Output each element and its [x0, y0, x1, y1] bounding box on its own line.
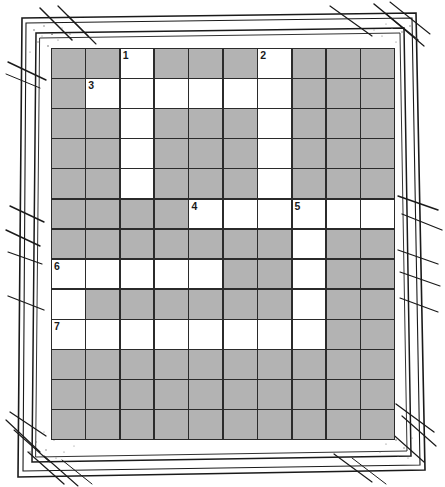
crossword-cell-block: [293, 169, 326, 198]
crossword-cell-block: [189, 109, 222, 138]
crossword-cell-block: [52, 200, 85, 229]
crossword-cell-block: [361, 410, 394, 439]
crossword-cell-block: [86, 169, 119, 198]
crossword-cell-open[interactable]: [155, 79, 188, 108]
crossword-cell-block: [52, 380, 85, 409]
crossword-cell-block: [293, 109, 326, 138]
crossword-cell-block: [293, 380, 326, 409]
crossword-cell-open[interactable]: [189, 260, 222, 289]
crossword-cell-block: [86, 49, 119, 78]
crossword-cell-block: [293, 350, 326, 379]
crossword-cell-block: [155, 230, 188, 259]
crossword-cell-open[interactable]: 2: [258, 49, 291, 78]
crossword-cell-block: [224, 139, 257, 168]
crossword-cell-open[interactable]: [361, 200, 394, 229]
crossword-cell-block: [155, 49, 188, 78]
crossword-cell-open[interactable]: [86, 260, 119, 289]
crossword-cell-block: [121, 380, 154, 409]
crossword-cell-block: [327, 169, 360, 198]
crossword-cell-block: [121, 410, 154, 439]
crossword-cell-open[interactable]: [258, 109, 291, 138]
crossword-cell-block: [155, 139, 188, 168]
crossword-cell-block: [121, 200, 154, 229]
crossword-cell-block: [52, 139, 85, 168]
crossword-cell-block: [86, 139, 119, 168]
clue-number: 6: [54, 260, 60, 272]
crossword-cell-block: [224, 49, 257, 78]
crossword-cell-block: [327, 350, 360, 379]
crossword-grid[interactable]: 1234567: [51, 48, 395, 440]
crossword-cell-open[interactable]: [121, 139, 154, 168]
crossword-cell-block: [224, 290, 257, 319]
crossword-cell-open[interactable]: [258, 139, 291, 168]
crossword-cell-open[interactable]: [258, 79, 291, 108]
crossword-cell-open[interactable]: [189, 320, 222, 349]
crossword-cell-open[interactable]: 6: [52, 260, 85, 289]
crossword-cell-block: [327, 380, 360, 409]
crossword-cell-open[interactable]: 4: [189, 200, 222, 229]
crossword-cell-block: [327, 320, 360, 349]
crossword-cell-block: [258, 380, 291, 409]
crossword-cell-open[interactable]: [258, 169, 291, 198]
crossword-cell-open[interactable]: [293, 320, 326, 349]
crossword-cell-block: [189, 350, 222, 379]
crossword-cell-open[interactable]: [155, 320, 188, 349]
crossword-cell-block: [155, 350, 188, 379]
crossword-cell-block: [155, 380, 188, 409]
crossword-cell-block: [327, 230, 360, 259]
crossword-cell-block: [293, 49, 326, 78]
crossword-cell-block: [86, 290, 119, 319]
crossword-cell-open[interactable]: [224, 320, 257, 349]
crossword-cell-block: [224, 260, 257, 289]
crossword-cell-open[interactable]: [121, 109, 154, 138]
crossword-cell-block: [52, 350, 85, 379]
crossword-cell-open[interactable]: [121, 260, 154, 289]
crossword-cell-block: [327, 109, 360, 138]
crossword-cell-open[interactable]: 7: [52, 320, 85, 349]
crossword-cell-open[interactable]: [155, 260, 188, 289]
crossword-cell-open[interactable]: [121, 79, 154, 108]
clue-number: 4: [191, 200, 197, 212]
crossword-cell-open[interactable]: [293, 290, 326, 319]
crossword-cell-block: [121, 290, 154, 319]
crossword-cell-block: [327, 410, 360, 439]
crossword-cell-open[interactable]: [121, 320, 154, 349]
crossword-cell-open[interactable]: 3: [86, 79, 119, 108]
crossword-cell-block: [155, 169, 188, 198]
crossword-cell-block: [155, 109, 188, 138]
crossword-grid-wrapper: 1234567: [51, 48, 395, 440]
crossword-cell-block: [361, 169, 394, 198]
crossword-cell-block: [258, 410, 291, 439]
crossword-page: 1234567: [0, 0, 445, 487]
crossword-cell-block: [361, 109, 394, 138]
crossword-cell-block: [327, 139, 360, 168]
crossword-cell-open[interactable]: [52, 290, 85, 319]
crossword-cell-open[interactable]: 5: [293, 200, 326, 229]
crossword-cell-open[interactable]: 1: [121, 49, 154, 78]
crossword-cell-block: [121, 350, 154, 379]
crossword-cell-open[interactable]: [224, 79, 257, 108]
crossword-cell-block: [224, 380, 257, 409]
clue-number: 2: [260, 49, 266, 61]
crossword-cell-block: [361, 49, 394, 78]
crossword-cell-open[interactable]: [327, 200, 360, 229]
crossword-cell-open[interactable]: [224, 200, 257, 229]
crossword-cell-open[interactable]: [258, 320, 291, 349]
crossword-cell-open[interactable]: [121, 169, 154, 198]
crossword-cell-open[interactable]: [86, 320, 119, 349]
crossword-cell-block: [52, 49, 85, 78]
crossword-cell-block: [52, 410, 85, 439]
crossword-cell-block: [327, 260, 360, 289]
crossword-cell-open[interactable]: [293, 230, 326, 259]
crossword-cell-block: [52, 230, 85, 259]
crossword-cell-block: [86, 230, 119, 259]
crossword-cell-block: [86, 410, 119, 439]
crossword-cell-open[interactable]: [258, 200, 291, 229]
crossword-cell-block: [293, 139, 326, 168]
crossword-cell-open[interactable]: [189, 79, 222, 108]
crossword-cell-block: [293, 79, 326, 108]
crossword-cell-block: [52, 109, 85, 138]
crossword-cell-block: [155, 410, 188, 439]
crossword-cell-block: [258, 290, 291, 319]
crossword-cell-open[interactable]: [293, 260, 326, 289]
